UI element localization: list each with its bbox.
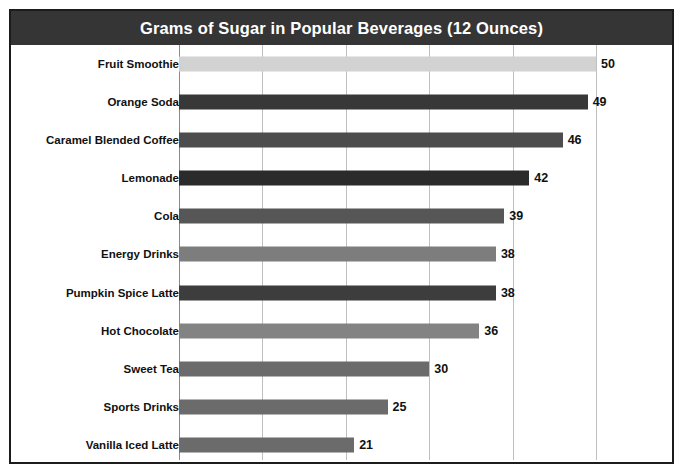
category-label: Orange Soda	[107, 96, 179, 108]
category-label: Hot Chocolate	[101, 325, 179, 337]
bar-value-label: 49	[593, 95, 607, 109]
bar[interactable]	[179, 247, 496, 262]
category-label: Caramel Blended Coffee	[46, 134, 179, 146]
category-label: Energy Drinks	[101, 248, 179, 260]
bar[interactable]	[179, 285, 496, 300]
bar-value-label: 42	[534, 171, 548, 185]
bar[interactable]	[179, 437, 354, 452]
category-label: Sports Drinks	[104, 401, 179, 413]
bar[interactable]	[179, 95, 588, 110]
bar-value-label: 38	[501, 247, 515, 261]
category-label: Cola	[154, 210, 179, 222]
chart-title-bar: Grams of Sugar in Popular Beverages (12 …	[11, 11, 672, 45]
bar[interactable]	[179, 209, 504, 224]
bar-value-label: 38	[501, 286, 515, 300]
bar-value-label: 30	[434, 362, 448, 376]
bar-row: Caramel Blended Coffee46	[11, 121, 672, 159]
bar-row: Pumpkin Spice Latte38	[11, 274, 672, 312]
bar-row: Lemonade42	[11, 159, 672, 197]
category-label: Vanilla Iced Latte	[86, 439, 179, 451]
plot-area: Fruit Smoothie50Orange Soda49Caramel Ble…	[11, 45, 672, 462]
bar[interactable]	[179, 323, 479, 338]
category-label: Fruit Smoothie	[98, 58, 179, 70]
bar-value-label: 39	[509, 209, 523, 223]
bar-row: Sweet Tea30	[11, 350, 672, 388]
category-label: Lemonade	[121, 172, 179, 184]
bar-row: Hot Chocolate36	[11, 312, 672, 350]
category-label: Pumpkin Spice Latte	[66, 287, 179, 299]
bar-row: Fruit Smoothie50	[11, 45, 672, 83]
category-label: Sweet Tea	[124, 363, 179, 375]
bar-row: Energy Drinks38	[11, 235, 672, 273]
bar-value-label: 50	[601, 57, 615, 71]
bar-row: Cola39	[11, 197, 672, 235]
chart-title: Grams of Sugar in Popular Beverages (12 …	[140, 19, 543, 38]
bar-row: Orange Soda49	[11, 83, 672, 121]
bar-value-label: 25	[393, 400, 407, 414]
bar-value-label: 36	[484, 324, 498, 338]
bar-row: Sports Drinks25	[11, 388, 672, 426]
bar-row: Vanilla Iced Latte21	[11, 426, 672, 464]
chart-frame: Grams of Sugar in Popular Beverages (12 …	[9, 9, 674, 464]
bar-value-label: 21	[359, 438, 373, 452]
bar-rows: Fruit Smoothie50Orange Soda49Caramel Ble…	[11, 45, 672, 462]
bar[interactable]	[179, 57, 596, 72]
bar-value-label: 46	[568, 133, 582, 147]
bar[interactable]	[179, 361, 429, 376]
bar[interactable]	[179, 133, 563, 148]
bar[interactable]	[179, 399, 388, 414]
bar[interactable]	[179, 171, 529, 186]
